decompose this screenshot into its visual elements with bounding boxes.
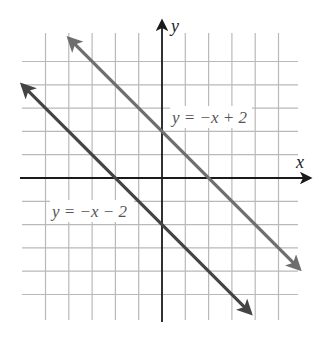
x-axis-label: x [295,152,304,172]
y-axis-label: y [169,16,179,36]
coordinate-graph: y = −x + 2 y = −x − 2 x y [0,0,324,343]
equation-label-upper: y = −x + 2 [170,108,248,127]
grid [22,33,298,320]
equation-label-lower: y = −x − 2 [50,202,128,221]
line-y-neg-x-plus-2 [69,38,300,269]
